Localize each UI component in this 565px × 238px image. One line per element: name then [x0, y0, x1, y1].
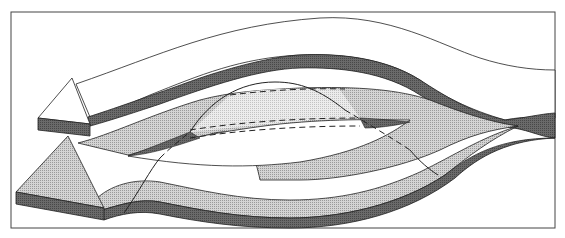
flow-diagram [0, 0, 565, 238]
